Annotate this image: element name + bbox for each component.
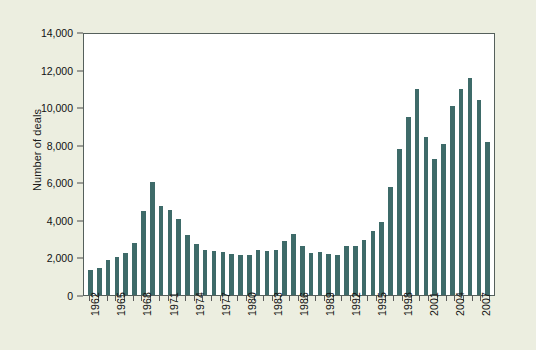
bar xyxy=(150,182,155,295)
bar xyxy=(300,246,305,295)
bar-slot xyxy=(351,34,360,295)
bar-slot xyxy=(280,34,289,295)
bar xyxy=(159,206,164,295)
bar xyxy=(176,219,181,295)
bar-slot xyxy=(121,34,130,295)
x-axis-tick-mark xyxy=(133,296,134,301)
bar-slot xyxy=(333,34,342,295)
x-axis-tick-mark xyxy=(341,296,342,301)
bar xyxy=(388,187,393,295)
bar-slot xyxy=(148,34,157,295)
bar-slot xyxy=(183,34,192,295)
y-axis-tick-label: 14,000 xyxy=(41,27,73,39)
bar xyxy=(379,222,384,295)
y-axis-tick-label: 4,000 xyxy=(47,215,73,227)
bar-slot xyxy=(139,34,148,295)
bar xyxy=(344,246,349,295)
bar-slot xyxy=(386,34,395,295)
y-axis-title-text: Number of deals xyxy=(31,109,43,191)
x-axis-tick-mark xyxy=(237,296,238,301)
y-axis-title: Number of deals xyxy=(28,0,46,300)
bar-slot xyxy=(165,34,174,295)
bar-slot xyxy=(245,34,254,295)
bar-slot xyxy=(421,34,430,295)
bar xyxy=(450,106,455,295)
bar xyxy=(326,254,331,295)
bar-slot xyxy=(201,34,210,295)
y-axis-tick-labels: 02,0004,0006,0008,00010,00012,00014,000 xyxy=(0,0,83,360)
bar xyxy=(106,260,111,295)
bar-slot xyxy=(324,34,333,295)
bar xyxy=(353,246,358,295)
bar-slot xyxy=(360,34,369,295)
bar-slot xyxy=(104,34,113,295)
bar xyxy=(194,244,199,295)
bar xyxy=(238,255,243,295)
bar-series xyxy=(84,34,494,295)
bar-slot xyxy=(263,34,272,295)
bar xyxy=(115,257,120,295)
y-axis-tick-label: 2,000 xyxy=(47,252,73,264)
bar xyxy=(335,255,340,295)
bar-slot xyxy=(439,34,448,295)
bar-slot xyxy=(474,34,483,295)
bar-slot xyxy=(95,34,104,295)
bar xyxy=(256,250,261,295)
x-axis-tick-mark xyxy=(211,296,212,301)
y-axis-tick-label: 12,000 xyxy=(41,65,73,77)
bar xyxy=(274,250,279,295)
x-axis-tick-mark xyxy=(263,296,264,301)
bar-slot xyxy=(227,34,236,295)
bar-slot xyxy=(483,34,492,295)
x-axis-tick-mark xyxy=(393,296,394,301)
y-axis-tick-label: 10,000 xyxy=(41,102,73,114)
chart-figure: Number of deals 02,0004,0006,0008,00010,… xyxy=(0,0,536,360)
bar xyxy=(424,137,429,295)
bar xyxy=(362,240,367,295)
bar xyxy=(185,235,190,295)
bar xyxy=(291,234,296,295)
bar xyxy=(141,211,146,295)
bar xyxy=(432,159,437,295)
bar-slot xyxy=(112,34,121,295)
bar xyxy=(203,250,208,295)
bar-slot xyxy=(395,34,404,295)
bar xyxy=(459,89,464,295)
bar xyxy=(441,144,446,295)
x-axis-tick-mark xyxy=(315,296,316,301)
bar xyxy=(371,231,376,295)
y-axis-tick-label: 8,000 xyxy=(47,140,73,152)
bar-slot xyxy=(316,34,325,295)
y-axis-tick-label: 6,000 xyxy=(47,177,73,189)
bar-slot xyxy=(369,34,378,295)
bar-slot xyxy=(271,34,280,295)
bar-slot xyxy=(218,34,227,295)
bar-slot xyxy=(430,34,439,295)
bar xyxy=(468,78,473,295)
bar-slot xyxy=(298,34,307,295)
bar xyxy=(212,251,217,295)
plot-area xyxy=(83,33,495,296)
bar xyxy=(318,252,323,295)
bar xyxy=(265,251,270,295)
x-axis-tick-mark xyxy=(185,296,186,301)
bar xyxy=(132,243,137,295)
bar xyxy=(168,210,173,295)
bar xyxy=(229,254,234,295)
x-axis-tick-mark xyxy=(159,296,160,301)
x-axis-tick-mark xyxy=(107,296,108,301)
bar-slot xyxy=(307,34,316,295)
bar-slot xyxy=(413,34,422,295)
bar xyxy=(485,142,490,295)
x-axis-tick-mark xyxy=(367,296,368,301)
bar-slot xyxy=(254,34,263,295)
y-axis-tick-label: 0 xyxy=(67,290,73,302)
bar xyxy=(406,117,411,295)
bar-slot xyxy=(236,34,245,295)
bar xyxy=(397,149,402,295)
bar xyxy=(415,89,420,295)
bar-slot xyxy=(404,34,413,295)
bar-slot xyxy=(466,34,475,295)
bar-slot xyxy=(174,34,183,295)
bar-slot xyxy=(130,34,139,295)
